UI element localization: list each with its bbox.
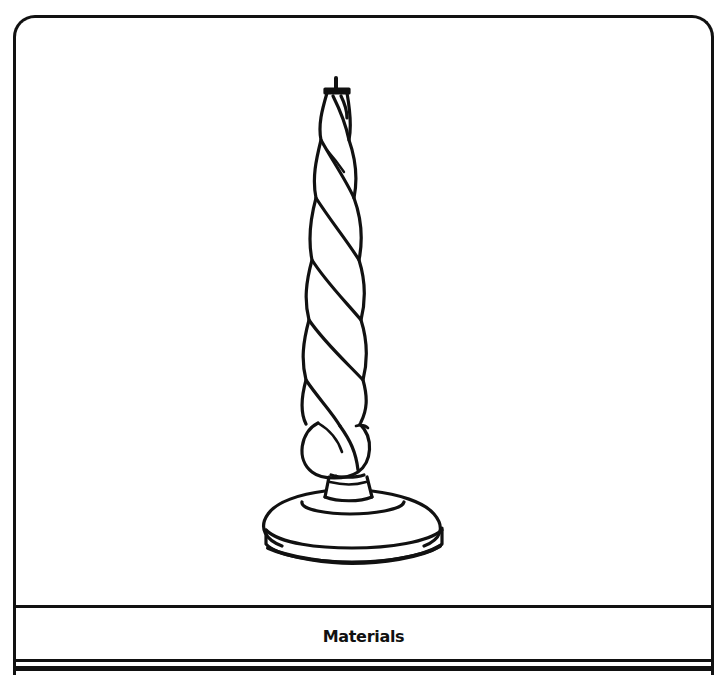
candle-knob <box>302 423 370 478</box>
candlestick-illustration <box>0 0 717 600</box>
caption-band: Materials <box>13 608 714 660</box>
candle-wick-icon <box>325 78 349 93</box>
twisted-shaft <box>302 93 367 426</box>
caption-bottom-rule <box>13 659 714 662</box>
caption-title: Materials <box>323 627 405 646</box>
page-bottom-rule <box>13 666 714 671</box>
